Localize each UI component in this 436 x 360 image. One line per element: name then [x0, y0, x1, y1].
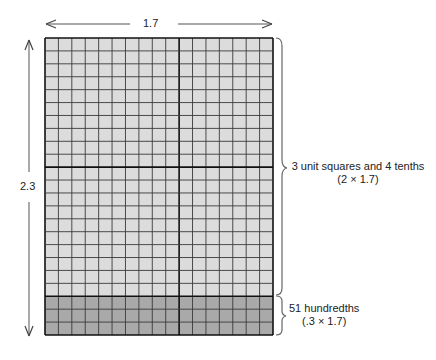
brace-upper — [276, 38, 287, 295]
annotation-upper-line1: 3 unit squares and 4 tenths — [288, 160, 428, 173]
annotation-lower-line2: (.3 × 1.7) — [289, 315, 389, 328]
annotation-upper: 3 unit squares and 4 tenths (2 × 1.7) — [288, 160, 428, 186]
hundredths-region — [45, 296, 273, 335]
height-label: 2.3 — [20, 180, 35, 193]
brace-lower — [276, 296, 286, 335]
width-label: 1.7 — [143, 17, 158, 30]
grid-cells — [45, 38, 273, 335]
annotation-lower-line1: 51 hundredths — [289, 302, 389, 315]
annotation-lower: 51 hundredths (.3 × 1.7) — [289, 302, 389, 328]
area-model-diagram: 1.7 2.3 3 unit squares and 4 tenths (2 ×… — [0, 0, 436, 360]
width-arrow — [46, 20, 272, 28]
annotation-upper-line2: (2 × 1.7) — [288, 173, 428, 186]
